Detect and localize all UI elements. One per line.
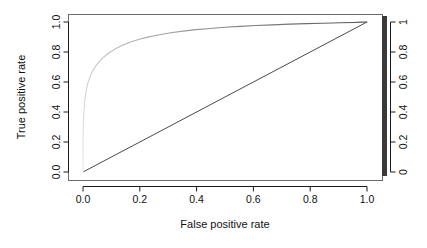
- roc-plot-figure: 0.0 0.2 0.4 0.6 0.8 1.0 True positive ra…: [0, 0, 427, 248]
- x-tick-label: 0.4: [189, 193, 204, 205]
- x-tick-label: 0.2: [132, 193, 147, 205]
- colorbar-tick-label: 0: [397, 169, 409, 175]
- x-tick-label: 0.6: [246, 193, 261, 205]
- y-tick-label: 0.2: [50, 135, 62, 150]
- colorbar-tick-label: 0.8: [397, 45, 409, 60]
- y-tick-label: 0.4: [50, 105, 62, 120]
- y-tick-label: 1.0: [50, 15, 62, 30]
- x-tick-label: 0.8: [303, 193, 318, 205]
- colorbar-tick-label: 0.4: [397, 105, 409, 120]
- colorbar-tick-label: 1: [397, 19, 409, 25]
- x-axis-ticks: [83, 187, 367, 192]
- colorbar-tick-label: 0.2: [397, 135, 409, 150]
- plot-canvas: 0.0 0.2 0.4 0.6 0.8 1.0 True positive ra…: [0, 0, 427, 248]
- x-axis-title: False positive rate: [180, 218, 269, 230]
- x-tick-label: 1.0: [360, 193, 375, 205]
- colorbar-tick-labels: 0 0.2 0.4 0.6 0.8 1: [397, 19, 409, 175]
- y-tick-label: 0.6: [50, 75, 62, 90]
- y-tick-labels: 0.0 0.2 0.4 0.6 0.8 1.0: [50, 15, 62, 180]
- x-tick-labels: 0.0 0.2 0.4 0.6 0.8 1.0: [76, 193, 375, 205]
- y-axis-ticks: [64, 22, 69, 172]
- y-tick-label: 0.0: [50, 165, 62, 180]
- y-axis-title: True positive rate: [15, 55, 27, 140]
- colorbar-tick-label: 0.6: [397, 75, 409, 90]
- plot-frame: [69, 15, 383, 181]
- colorbar-gradient: [382, 16, 387, 176]
- y-tick-label: 0.8: [50, 45, 62, 60]
- x-tick-label: 0.0: [76, 193, 91, 205]
- colorbar-ticks: [391, 22, 396, 172]
